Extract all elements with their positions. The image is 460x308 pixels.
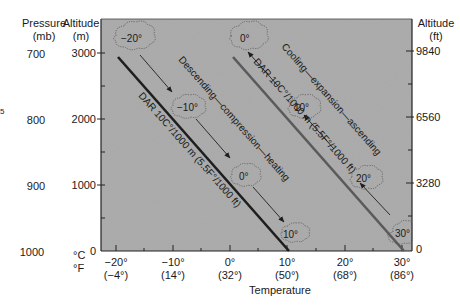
- cloud-temp: −20°: [121, 33, 142, 44]
- cloud-temp: 10°: [283, 229, 298, 240]
- cloud-temp: 30°: [395, 228, 410, 239]
- diagram-plot: −20° −10° 0° 10° 0° 10° 20° 30° DAR 10C°…: [0, 0, 460, 308]
- cloud-temp: 20°: [356, 173, 371, 184]
- cloud-temp: 0°: [240, 33, 250, 44]
- cloud-temp: 0°: [239, 171, 249, 182]
- cloud-temp: −10°: [177, 102, 198, 113]
